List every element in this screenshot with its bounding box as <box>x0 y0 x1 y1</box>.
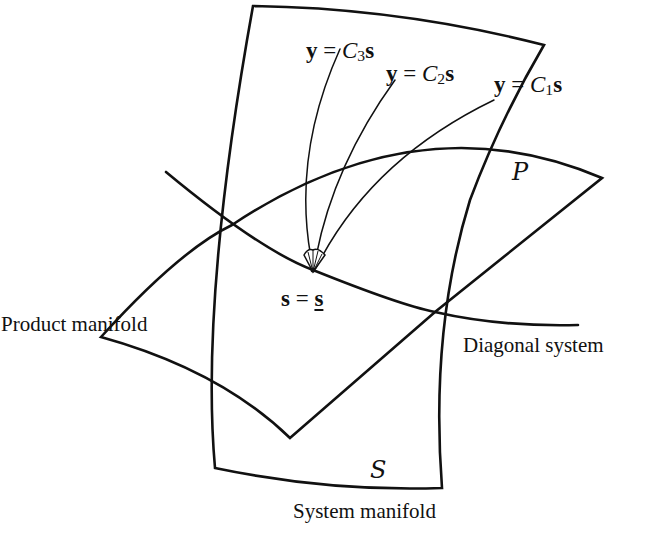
curve-c1 <box>316 100 494 268</box>
product-symbol: P <box>512 160 528 184</box>
label-y-c1-sub: 1 <box>545 81 553 98</box>
label-y-c3-var: s <box>365 38 374 63</box>
label-y-c3-coef: C <box>342 38 357 63</box>
label-y-c3-lhs: y <box>306 38 318 63</box>
system-symbol: S <box>370 458 386 482</box>
label-y-c2-coef: C <box>422 61 437 86</box>
diagram-svg <box>0 0 665 551</box>
product-manifold-caption: Product manifold <box>1 314 147 335</box>
label-point-eq: = <box>290 286 314 311</box>
label-point-lhs: s <box>281 286 290 311</box>
diagonal-system-curve <box>166 172 578 325</box>
label-point: s = s <box>281 287 323 310</box>
label-point-rhs: s <box>314 286 323 311</box>
label-y-c1-eq: = <box>506 72 530 97</box>
label-y-c2-sub: 2 <box>437 70 445 87</box>
system-manifold-caption: System manifold <box>293 501 436 522</box>
label-y-c1: y = C1s <box>494 73 562 98</box>
label-y-c3: y = C3s <box>306 39 374 64</box>
label-y-c1-lhs: y <box>494 72 506 97</box>
label-y-c3-sub: 3 <box>357 47 365 64</box>
label-y-c1-var: s <box>553 72 562 97</box>
label-y-c2: y = C2s <box>386 62 454 87</box>
label-y-c3-eq: = <box>318 38 342 63</box>
label-y-c2-lhs: y <box>386 61 398 86</box>
product-manifold-outline <box>101 148 602 438</box>
label-y-c2-eq: = <box>398 61 422 86</box>
label-y-c1-coef: C <box>530 72 545 97</box>
manifold-diagram: y = C3s y = C2s y = C1s s = s P S Produc… <box>0 0 665 551</box>
diagonal-system-caption: Diagonal system <box>463 335 604 356</box>
label-y-c2-var: s <box>445 61 454 86</box>
